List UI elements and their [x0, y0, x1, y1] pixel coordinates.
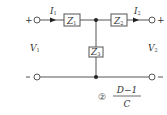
terminal-out-minus	[149, 74, 155, 80]
answer-denominator: C	[124, 99, 131, 109]
terminal-in-minus	[34, 74, 40, 80]
plus-sign-right: +	[157, 15, 165, 25]
t-network-diagram: + + Z1 Z2 Z3 I1 I2 V1 V2 ② D−1 C	[0, 0, 167, 115]
v2-label: V2	[148, 43, 158, 53]
current-arrow-i1	[50, 18, 56, 23]
junction-top	[94, 18, 98, 22]
plus-sign-left: +	[25, 15, 33, 25]
i1-label: I1	[49, 6, 57, 16]
terminal-out-plus	[149, 17, 155, 23]
i2-label: I2	[133, 6, 141, 16]
v1-label: V1	[30, 43, 40, 53]
current-arrow-i2	[133, 18, 139, 23]
terminal-in-plus	[34, 17, 40, 23]
answer-numerator: D−1	[116, 85, 137, 95]
junction-bottom	[94, 75, 98, 79]
answer-marker: ②	[98, 92, 106, 102]
circuit-svg: + + Z1 Z2 Z3 I1 I2 V1 V2 ② D−1 C	[0, 0, 167, 115]
